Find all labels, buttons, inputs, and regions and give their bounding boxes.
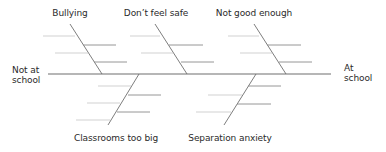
right-end-label: At school (344, 63, 372, 83)
right-end-line2: school (344, 73, 372, 83)
left-end-line2: school (12, 75, 40, 85)
bone-line (70, 24, 102, 74)
right-end-line1: At (344, 63, 372, 73)
bone-line (155, 24, 187, 74)
cause-label-bullying: Bullying (52, 8, 87, 19)
cause-label-separation-anxiety: Separation anxiety (188, 133, 271, 144)
bone-dont-feel-safe (130, 24, 214, 74)
left-end-label: Not at school (12, 65, 40, 85)
cause-label-not-good-enough: Not good enough (216, 8, 292, 19)
bone-classrooms-too-big (76, 74, 161, 125)
fishbone-diagram (0, 0, 386, 152)
bone-line (224, 74, 256, 125)
bone-line (108, 74, 139, 125)
cause-label-classrooms-too-big: Classrooms too big (74, 133, 158, 144)
bone-separation-anxiety (196, 74, 281, 125)
bone-bullying (43, 24, 127, 74)
bone-not-good-enough (228, 24, 312, 74)
cause-label-dont-feel-safe: Don’t feel safe (124, 8, 188, 19)
left-end-line1: Not at (12, 65, 40, 75)
bone-line (254, 24, 286, 74)
